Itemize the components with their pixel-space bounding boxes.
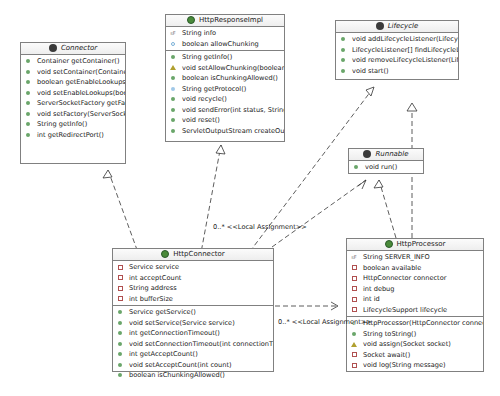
- method-label: void run(): [365, 163, 397, 171]
- class-runnable[interactable]: Runnable void run(): [348, 148, 424, 174]
- visibility-pub-icon: [169, 105, 177, 116]
- field-row[interactable]: boolean allowChunking: [166, 39, 284, 50]
- visibility-pub-icon: [350, 329, 358, 340]
- field-row[interactable]: String address: [113, 283, 273, 294]
- visibility-pub-icon: [116, 328, 124, 339]
- field-label: String SERVER_INFO: [363, 253, 430, 261]
- field-row[interactable]: LifecycleSupport lifecycle: [347, 305, 483, 316]
- method-row[interactable]: void start(): [336, 66, 458, 77]
- visibility-pub-icon: [169, 115, 177, 126]
- visibility-pub-icon: [116, 339, 124, 350]
- method-row[interactable]: LifecycleListener[] findLifecycleListene…: [336, 45, 458, 56]
- method-row[interactable]: ServerSocketFactory getFactory(): [21, 98, 125, 109]
- field-label: int debug: [363, 285, 395, 293]
- visibility-priv-icon: [350, 350, 358, 361]
- method-row[interactable]: void setService(Service service): [113, 318, 273, 329]
- visibility-pub-icon: [24, 119, 32, 130]
- field-row[interactable]: int id: [347, 294, 483, 305]
- method-row[interactable]: int getRedirectPort(): [21, 130, 125, 141]
- method-row[interactable]: String getInfo(): [166, 52, 284, 63]
- method-row[interactable]: void setAllowChunking(boolean allowChun.…: [166, 63, 284, 74]
- method-row[interactable]: int getAcceptCount(): [113, 349, 273, 360]
- method-row[interactable]: boolean getEnableLookups(): [21, 77, 125, 88]
- class-httpconnector[interactable]: HttpConnector Service serviceint acceptC…: [112, 248, 274, 372]
- visibility-priv-icon: [350, 294, 358, 305]
- method-row[interactable]: void setAcceptCount(int count): [113, 360, 273, 371]
- method-label: String getInfo(): [182, 53, 232, 61]
- visibility-priv-icon: [116, 294, 124, 305]
- method-label: void setContainer(Container co...: [37, 68, 125, 76]
- visibility-pub-icon: [169, 126, 177, 137]
- method-label: int getRedirectPort(): [37, 131, 104, 139]
- method-row[interactable]: ServletOutputStream createOutputStream(): [166, 126, 284, 137]
- relation-label-local-assignment: 0..* <<Local Assignment>>: [213, 223, 307, 231]
- method-label: void recycle(): [182, 95, 227, 103]
- visibility-pub-icon: [24, 56, 32, 67]
- visibility-pub-icon: [116, 360, 124, 371]
- class-lifecycle[interactable]: Lifecycle void addLifecycleListener(Life…: [335, 20, 459, 80]
- method-label: String toString(): [363, 330, 416, 338]
- visibility-priv-icon: [116, 273, 124, 284]
- fields-section: Service serviceint acceptCountString add…: [113, 261, 273, 306]
- method-row[interactable]: Socket await(): [347, 350, 483, 361]
- method-label: int getConnectionTimeout(): [129, 329, 220, 337]
- field-label: int id: [363, 295, 380, 303]
- visibility-pub-icon: [339, 45, 347, 56]
- method-label: int getAcceptCount(): [129, 350, 198, 358]
- method-row[interactable]: Container getContainer(): [21, 56, 125, 67]
- method-row[interactable]: void recycle(): [166, 94, 284, 105]
- method-row[interactable]: String toString(): [347, 329, 483, 340]
- field-label: Service service: [129, 263, 179, 271]
- method-row[interactable]: int getConnectionTimeout(): [113, 328, 273, 339]
- method-row[interactable]: void assign(Socket socket): [347, 339, 483, 350]
- relation-label-local-assignment: 0..* <<Local Assignment>>: [278, 318, 372, 326]
- field-row[interactable]: Service service: [113, 262, 273, 273]
- method-row[interactable]: String getInfo(): [21, 119, 125, 130]
- method-label: void setAcceptCount(int count): [129, 361, 232, 369]
- methods-section: String getInfo()void setAllowChunking(bo…: [166, 51, 284, 137]
- class-icon: [385, 240, 393, 248]
- class-header: HttpResponseImpl: [166, 15, 284, 27]
- method-row[interactable]: Service getService(): [113, 307, 273, 318]
- method-label: void setService(Service service): [129, 319, 235, 327]
- method-row[interactable]: void log(String message): [347, 360, 483, 371]
- visibility-pkgfield-icon: [169, 39, 177, 50]
- class-httpresponseimpl[interactable]: HttpResponseImpl String infoboolean allo…: [165, 14, 285, 142]
- field-row[interactable]: int bufferSize: [113, 294, 273, 305]
- field-row[interactable]: HttpConnector connector: [347, 273, 483, 284]
- field-label: boolean allowChunking: [182, 40, 259, 48]
- method-row[interactable]: void reset(): [166, 115, 284, 126]
- method-row[interactable]: void removeLifecycleListener(LifecycleLi…: [336, 55, 458, 66]
- method-row[interactable]: void addLifecycleListener(LifecycleListe…: [336, 34, 458, 45]
- method-row[interactable]: void run(): [349, 162, 423, 173]
- methods-section: void run(): [349, 161, 423, 174]
- class-httpprocessor[interactable]: HttpProcessor String SERVER_INFOboolean …: [346, 238, 484, 372]
- class-connector[interactable]: Connector Container getContainer()void s…: [20, 42, 126, 164]
- visibility-priv-icon: [116, 262, 124, 273]
- method-label: boolean isChunkingAllowed(): [182, 74, 278, 82]
- method-row[interactable]: void setFactory(ServerSocketF...: [21, 109, 125, 120]
- method-row[interactable]: void setContainer(Container co...: [21, 67, 125, 78]
- method-row[interactable]: boolean isChunkingAllowed(): [113, 370, 273, 381]
- method-label: void setConnectionTimeout(int connection…: [129, 340, 273, 348]
- field-row[interactable]: int debug: [347, 284, 483, 295]
- visibility-pub-icon: [116, 349, 124, 360]
- method-label: void addLifecycleListener(LifecycleListe…: [352, 35, 458, 43]
- method-row[interactable]: void setEnableLookups(boolean...: [21, 88, 125, 99]
- field-row[interactable]: String SERVER_INFO: [347, 252, 483, 263]
- visibility-priv-icon: [350, 263, 358, 274]
- field-row[interactable]: boolean available: [347, 263, 483, 274]
- method-row[interactable]: boolean isChunkingAllowed(): [166, 73, 284, 84]
- method-row[interactable]: String getProtocol(): [166, 84, 284, 95]
- method-label: String getProtocol(): [182, 85, 246, 93]
- method-label: ServerSocketFactory getFactory(): [37, 99, 125, 107]
- method-row[interactable]: void sendError(int status, String messag…: [166, 105, 284, 116]
- field-row[interactable]: int acceptCount: [113, 273, 273, 284]
- field-row[interactable]: String info: [166, 28, 284, 39]
- visibility-prot-icon: [169, 63, 177, 74]
- class-header: Lifecycle: [336, 21, 458, 33]
- method-row[interactable]: void setConnectionTimeout(int connection…: [113, 339, 273, 350]
- method-label: Service getService(): [129, 308, 196, 316]
- methods-section: void addLifecycleListener(LifecycleListe…: [336, 33, 458, 77]
- field-label: String info: [182, 29, 216, 37]
